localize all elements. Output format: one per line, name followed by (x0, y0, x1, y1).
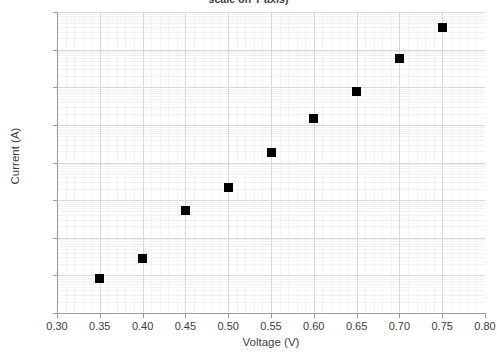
y-tick-mark (53, 163, 57, 164)
x-tick-mark (442, 314, 443, 318)
data-point (309, 114, 318, 123)
x-tick-mark (314, 314, 315, 318)
data-point (352, 87, 361, 96)
x-tick-mark (185, 314, 186, 318)
x-tick-mark (57, 314, 58, 318)
data-point (181, 206, 190, 215)
grid-major-x (271, 12, 272, 313)
grid-major-x (228, 12, 229, 313)
data-point (138, 254, 147, 263)
data-point (224, 183, 233, 192)
y-axis-line (57, 12, 58, 314)
data-point (267, 148, 276, 157)
y-tick-mark (53, 125, 57, 126)
plot-area (57, 12, 485, 313)
x-axis-label: Voltage (V) (57, 336, 485, 348)
data-point (438, 23, 447, 32)
grid-major-x (442, 12, 443, 313)
y-tick-mark (53, 238, 57, 239)
x-tick-mark (271, 314, 272, 318)
y-tick-mark (53, 87, 57, 88)
x-tick-mark (143, 314, 144, 318)
y-tick-mark (53, 275, 57, 276)
y-tick-mark (53, 313, 57, 314)
x-tick-mark (357, 314, 358, 318)
x-tick-mark (399, 314, 400, 318)
x-tick-label: 0.80 (455, 320, 497, 332)
grid-major-x (185, 12, 186, 313)
grid-major-x (357, 12, 358, 313)
y-tick-mark (53, 12, 57, 13)
grid-major-x (143, 12, 144, 313)
chart-title: scale on Y axis) (0, 0, 497, 7)
chart-figure: scale on Y axis) 0.300.350.400.450.500.5… (0, 0, 497, 355)
y-tick-mark (53, 200, 57, 201)
data-point (395, 54, 404, 63)
y-tick-mark (53, 50, 57, 51)
data-point (95, 274, 104, 283)
y-axis-label: Current (A) (9, 86, 21, 226)
x-tick-mark (228, 314, 229, 318)
grid-major-x (100, 12, 101, 313)
x-tick-mark (485, 314, 486, 318)
grid-major-x (314, 12, 315, 313)
x-tick-mark (100, 314, 101, 318)
